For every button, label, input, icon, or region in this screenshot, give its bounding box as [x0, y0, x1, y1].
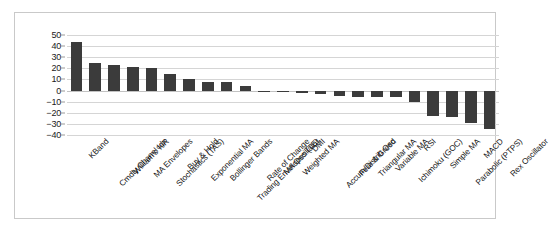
y-axis-tick-label: 10: [51, 75, 61, 84]
y-axis-tick-label: −10: [46, 97, 61, 106]
y-axis-tick-mark: [61, 35, 65, 36]
bar: [108, 65, 120, 91]
x-axis-labels: KBandCmdty Chanel IdxWilliam's %RMA Enve…: [67, 137, 499, 232]
bar: [371, 91, 383, 97]
y-axis: 50403020100−10−20−30−40: [29, 35, 65, 135]
bar-series: [67, 35, 499, 135]
y-axis-tick-label: 20: [51, 64, 61, 73]
bar: [390, 91, 402, 97]
y-axis-tick-mark: [61, 101, 65, 102]
y-axis-tick-mark: [61, 112, 65, 113]
x-axis-tick-label: KBand: [87, 137, 110, 160]
y-axis-tick-label: −20: [46, 108, 61, 117]
y-axis-tick-label: −40: [46, 131, 61, 140]
y-axis-tick-mark: [61, 79, 65, 80]
bar: [315, 91, 327, 95]
bar: [446, 91, 458, 118]
y-axis-tick-label: 50: [51, 31, 61, 40]
y-axis-tick-mark: [61, 135, 65, 136]
bar: [427, 91, 439, 117]
bar: [202, 82, 214, 90]
y-axis-tick-mark: [61, 68, 65, 69]
bar: [127, 67, 139, 91]
bar: [71, 42, 83, 91]
chart-frame: 50403020100−10−20−30−40 KBandCmdty Chane…: [14, 12, 496, 219]
bar: [146, 68, 158, 90]
y-axis-tick-mark: [61, 46, 65, 47]
plot-area: [67, 35, 499, 135]
bar: [89, 63, 101, 91]
y-axis-tick-mark: [61, 123, 65, 124]
bar: [277, 91, 289, 92]
bar: [240, 86, 252, 90]
bar: [183, 79, 195, 90]
y-axis-tick-label: 30: [51, 53, 61, 62]
y-axis-tick-label: −30: [46, 119, 61, 128]
bar: [296, 91, 308, 94]
y-axis-tick-mark: [61, 90, 65, 91]
bar: [164, 74, 176, 91]
bar: [465, 91, 477, 123]
bar: [484, 91, 496, 130]
bar: [352, 91, 364, 97]
bar: [221, 82, 233, 90]
bar: [334, 91, 346, 96]
bar: [258, 91, 270, 92]
y-axis-tick-label: 40: [51, 42, 61, 51]
gridline: [67, 135, 499, 136]
y-axis-tick-mark: [61, 57, 65, 58]
bar: [409, 91, 421, 102]
